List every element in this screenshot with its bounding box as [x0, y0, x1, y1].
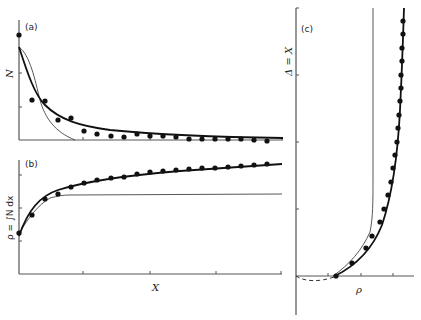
- panel-a-thick-curve: [19, 47, 283, 138]
- panel-b-y-label: ρ = ∫N dx: [5, 195, 15, 240]
- panel-b-thick-curve: [19, 164, 282, 236]
- figure: (a) N: [0, 0, 421, 320]
- panel-c-y-label: Δ = X: [283, 46, 294, 77]
- panel-c-data-points: [333, 18, 405, 278]
- panel-a-label: (a): [25, 22, 38, 32]
- panel-b-x-label: X: [151, 282, 160, 293]
- panel-c-label: (c): [301, 24, 313, 34]
- panel-c-x-label: ρ: [355, 284, 362, 295]
- panel-c: (c) Δ = X ρ: [283, 8, 414, 315]
- panel-b: (b) ρ = ∫N dx X: [5, 159, 282, 293]
- panel-a: (a) N: [4, 20, 283, 144]
- panel-a-thin-curve: [19, 47, 75, 140]
- panel-a-y-label: N: [4, 68, 15, 79]
- panel-b-data-points: [16, 161, 269, 235]
- panel-b-label: (b): [25, 159, 38, 169]
- panel-c-thin-curve: [333, 8, 373, 276]
- panel-c-dashed-curve: [296, 276, 334, 281]
- panel-b-thin-curve: [19, 194, 282, 234]
